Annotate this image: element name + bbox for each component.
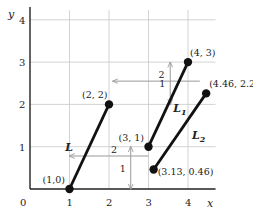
- x-tick-label: 0: [20, 197, 26, 208]
- endpoint-dot: [202, 89, 210, 97]
- point-label: (4, 3): [190, 47, 216, 58]
- endpoint-dot: [149, 165, 157, 173]
- y-tick-label: 4: [19, 15, 25, 26]
- y-tick-label: 1: [19, 142, 25, 153]
- y-tick-label: 2: [19, 99, 25, 110]
- point-label: (4.46, 2.26): [209, 78, 253, 89]
- coordinate-diagram: 012341234 2121 (1,0)(2, 2)L(3, 1)(4, 3)L…: [0, 0, 253, 214]
- y-tick-label: 3: [19, 57, 25, 68]
- endpoint-dot: [144, 143, 152, 151]
- line-name-label: L: [64, 141, 73, 154]
- line-name-subscript: 2: [199, 134, 206, 144]
- point-labels: (1,0)(2, 2)L(3, 1)(4, 3)L1(3.13, 0.46)(4…: [43, 47, 254, 185]
- vertical-shift-label: 1: [159, 78, 165, 89]
- endpoint-dot: [105, 100, 113, 108]
- vertical-shift-label: 1: [120, 163, 126, 174]
- x-tick-label: 1: [67, 197, 73, 208]
- line-name-label: L2: [191, 129, 206, 144]
- point-label: (3, 1): [119, 132, 145, 143]
- x-tick-label: 2: [106, 197, 112, 208]
- point-label: (3.13, 0.46): [158, 166, 214, 177]
- point-label: (1,0): [43, 174, 66, 185]
- y-axis-label: y: [7, 8, 15, 21]
- line-name-subscript: 1: [181, 107, 187, 117]
- x-tick-label: 4: [185, 197, 191, 208]
- x-tick-label: 3: [146, 197, 152, 208]
- endpoint-dot: [65, 185, 73, 193]
- point-label: (2, 2): [82, 89, 108, 100]
- endpoint-dot: [184, 58, 192, 66]
- horizontal-shift-label: 2: [111, 144, 117, 155]
- x-axis-label: x: [207, 197, 214, 210]
